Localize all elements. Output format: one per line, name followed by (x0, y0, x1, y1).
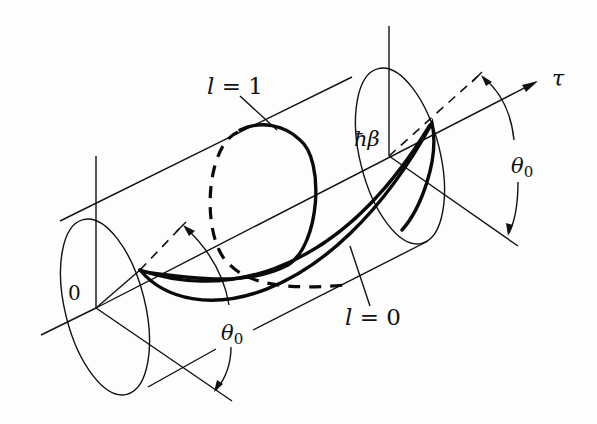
label-hbar-beta: ħβ (354, 127, 380, 151)
label-theta0-right: θ0 (511, 154, 533, 181)
right-dashed-tick (472, 72, 482, 82)
cylinder-bottom-line-a (148, 349, 216, 387)
l0-leader-line (350, 246, 370, 306)
left-end-ellipse (44, 210, 165, 404)
left-lower-diagonal-axis (96, 308, 232, 401)
right-arc-arrowhead-bottom-icon (506, 223, 513, 236)
diagram-canvas: l = 1 l = 0 0 ħβ τ θ0 θ0 (0, 0, 597, 424)
right-lower-diagonal-axis (389, 156, 518, 246)
label-tau: τ (552, 66, 565, 91)
theta0-right-arc-top (484, 78, 514, 140)
path-l0-upper (140, 125, 430, 281)
left-dashed-radius (140, 226, 182, 270)
left-horizontal-axis (41, 308, 96, 335)
label-origin: 0 (68, 281, 81, 305)
label-l0: l = 0 (345, 304, 401, 330)
path-l1-front (145, 125, 316, 279)
label-theta0-left: θ0 (221, 321, 243, 348)
theta0-left-arc-top (186, 228, 229, 305)
label-l1: l = 1 (207, 73, 263, 99)
path-l0-lower (140, 123, 434, 300)
tau-arrowhead-icon (522, 81, 538, 92)
cylinder-diagram: l = 1 l = 0 0 ħβ τ θ0 θ0 (0, 0, 597, 424)
path-l1-back (210, 132, 345, 287)
